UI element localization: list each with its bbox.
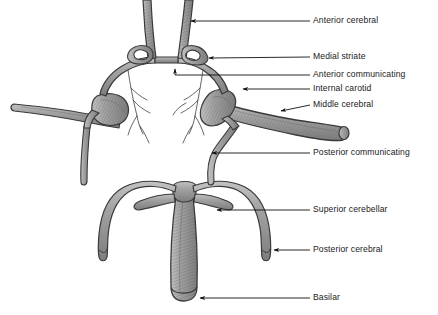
perforating-branches-left bbox=[128, 70, 150, 143]
vessel-posterior-cerebral-left bbox=[98, 181, 176, 261]
vessel-medial-striate-right bbox=[182, 45, 208, 65]
perforating-branches-right bbox=[173, 70, 204, 143]
vessel-basilar-tip bbox=[173, 182, 196, 203]
leader-middle-cerebral bbox=[281, 105, 310, 111]
label-anterior-communicating: Anterior communicating bbox=[313, 70, 405, 79]
vessel-posterior-cerebral-right bbox=[193, 181, 271, 261]
vessel-superior-cerebellar-left bbox=[134, 194, 175, 210]
vessel-internal-carotid-left bbox=[92, 94, 129, 126]
diagram-canvas: Anterior cerebral Medial striate Anterio… bbox=[0, 0, 438, 315]
vessel-posterior-communicating-right bbox=[208, 124, 238, 185]
circle-of-willis-illustration bbox=[0, 0, 438, 315]
label-basilar: Basilar bbox=[313, 293, 340, 302]
label-middle-cerebral: Middle cerebral bbox=[313, 100, 373, 109]
vessel-middle-cerebral-right bbox=[222, 104, 349, 141]
leader-medial-striate bbox=[209, 57, 310, 58]
label-posterior-communicating: Posterior communicating bbox=[313, 148, 410, 157]
vessel-anterior-communicating bbox=[155, 57, 178, 63]
label-internal-carotid: Internal carotid bbox=[313, 84, 371, 93]
vessel-basilar bbox=[171, 196, 198, 301]
vessel-posterior-communicating-left bbox=[81, 126, 90, 185]
vessel-superior-cerebellar-right bbox=[194, 194, 233, 210]
label-posterior-cerebral: Posterior cerebral bbox=[313, 245, 383, 254]
label-superior-cerebellar: Superior cerebellar bbox=[313, 205, 388, 214]
vessel-medial-striate-left bbox=[128, 45, 154, 64]
label-anterior-cerebral: Anterior cerebral bbox=[313, 16, 378, 25]
label-medial-striate: Medial striate bbox=[313, 52, 366, 61]
